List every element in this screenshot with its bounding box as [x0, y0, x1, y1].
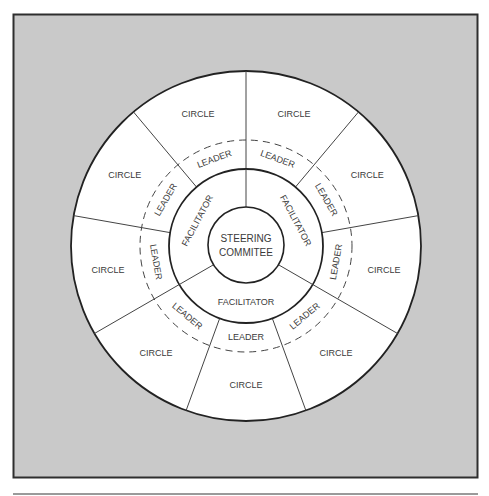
circle-label: CIRCLE — [108, 170, 141, 180]
steering-label-line2: COMMITEE — [219, 247, 273, 258]
steering-committee-circle — [208, 207, 284, 283]
circle-label: CIRCLE — [277, 109, 310, 119]
circle-label: CIRCLE — [229, 380, 262, 390]
leader-label: LEADER — [228, 332, 265, 342]
bottom-divider — [13, 493, 478, 495]
circle-label: CIRCLE — [139, 348, 172, 358]
circle-label: CIRCLE — [367, 265, 400, 275]
steering-label-line1: STEERING — [220, 233, 271, 244]
facilitator-label-bottom: FACILITATOR — [218, 297, 275, 307]
circle-label: CIRCLE — [351, 170, 384, 180]
circle-label: CIRCLE — [92, 265, 125, 275]
diagram-stage: STEERING COMMITEE FACILITATOR FACILITATO… — [0, 0, 489, 496]
circle-label: CIRCLE — [182, 109, 215, 119]
circle-label: CIRCLE — [319, 348, 352, 358]
